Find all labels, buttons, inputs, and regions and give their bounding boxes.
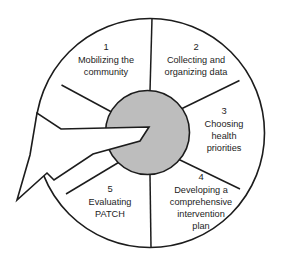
segment-4-line4: plan bbox=[192, 221, 209, 231]
segment-1-line2: community bbox=[84, 67, 129, 77]
segment-4-line1: Developing a bbox=[174, 185, 229, 195]
segment-4-number: 4 bbox=[198, 171, 203, 182]
segment-1-number: 1 bbox=[103, 41, 108, 52]
patch-cycle-diagram: 1 Mobilizing the community 2 Collecting … bbox=[0, 0, 281, 258]
spoke-4-5 bbox=[150, 175, 151, 248]
patch-cycle-svg: 1 Mobilizing the community 2 Collecting … bbox=[0, 0, 281, 258]
segment-3-line2: health bbox=[211, 131, 236, 141]
segment-1-line1: Mobilizing the bbox=[78, 55, 134, 65]
segment-3-number: 3 bbox=[221, 105, 226, 116]
segment-2-line2: organizing data bbox=[165, 67, 229, 77]
segment-5-line1: Evaluating bbox=[89, 197, 132, 207]
segment-2-line1: Collecting and bbox=[167, 55, 225, 65]
segment-4-line2: comprehensive bbox=[170, 197, 232, 207]
segment-2-number: 2 bbox=[193, 41, 198, 52]
segment-3-line3: priorities bbox=[207, 143, 242, 153]
segment-5-number: 5 bbox=[107, 183, 112, 194]
segment-4-line3: intervention bbox=[177, 209, 225, 219]
segment-3-line1: Choosing bbox=[205, 119, 244, 129]
segment-5-line2: PATCH bbox=[95, 209, 125, 219]
